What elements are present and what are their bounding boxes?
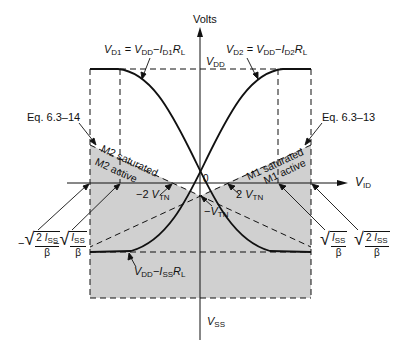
vd2-pointer-arrow-icon <box>253 72 258 79</box>
vd1-equation: VD1 = VDD−ID1RL <box>104 44 185 57</box>
tick-pos-outer-arrow-icon <box>312 184 319 190</box>
x-axis-arrow-icon <box>337 180 348 186</box>
vss-label: VSS <box>207 316 225 329</box>
tick-neg-inner: − √ISSβ <box>53 228 87 258</box>
tick-pos-inner: √ISSβ <box>320 228 347 258</box>
eq-left-label: Eq. 6.3–14 <box>27 112 80 123</box>
y-axis-label: Volts <box>193 14 217 25</box>
x-axis-label: VID <box>355 176 371 190</box>
diagram-canvas <box>0 0 402 341</box>
y-axis-arrow-icon <box>197 27 203 37</box>
eq-right-pointer-arrow-icon <box>305 138 311 145</box>
pos-2vtn-label: 2 VTN <box>236 189 263 202</box>
eq-left-pointer-arrow-icon <box>90 138 96 145</box>
vd1-pointer-arrow-icon <box>141 72 146 79</box>
origin-label: 0 <box>203 174 209 184</box>
vmin-equation: VDD−ISSRL <box>134 266 185 279</box>
tick-pos-outer-pointer <box>314 186 358 230</box>
eq-right-label: Eq. 6.3–13 <box>322 112 375 123</box>
vdd-label: VDD <box>206 56 225 69</box>
neg-vtn-label: −VTN <box>204 206 228 219</box>
vd2-equation: VD2 = VDD−ID2RL <box>226 44 307 57</box>
tick-pos-outer: √2 ISSβ <box>354 228 390 258</box>
neg-2vtn-label: −2 VTN <box>136 189 170 202</box>
tick-neg-outer-arrow-icon <box>83 184 89 190</box>
